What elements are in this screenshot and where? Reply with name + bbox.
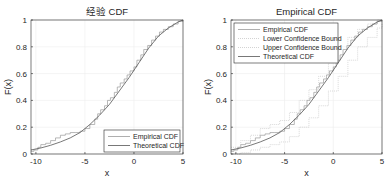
x-tick-label: -10 <box>230 157 242 166</box>
x-tick-label: 5 <box>380 157 385 166</box>
x-tick-label: 0 <box>331 157 336 166</box>
x-tick-label: 0 <box>132 157 137 166</box>
y-axis-label: F(x) <box>3 79 13 95</box>
y-tick-label: 0.4 <box>16 96 28 105</box>
x-axis-label: x <box>105 168 110 178</box>
chart-title: 经验 CDF <box>86 6 128 17</box>
y-tick-label: 0.4 <box>216 96 228 105</box>
x-tick-label: -5 <box>281 157 289 166</box>
x-axis-label: x <box>304 168 309 178</box>
y-tick-label: 0.8 <box>216 43 228 52</box>
legend-entry: Upper Confidence Bound <box>263 44 342 52</box>
legend-entry: Empirical CDF <box>133 133 178 141</box>
legend-entry: Empirical CDF <box>263 26 308 34</box>
x-tick-label: -10 <box>30 157 42 166</box>
y-tick-label: 1 <box>223 16 228 25</box>
y-axis-label: F(x) <box>203 79 213 95</box>
legend-entry: Lower Confidence Bound <box>263 35 342 42</box>
x-tick-label: 5 <box>181 157 186 166</box>
x-tick-label: -5 <box>81 157 89 166</box>
y-tick-label: 0.2 <box>16 123 28 132</box>
legend: Empirical CDFTheoretical CDF <box>104 130 184 152</box>
legend-entry: Theoretical CDF <box>133 142 184 149</box>
y-tick-label: 0 <box>23 150 28 159</box>
y-tick-label: 0.8 <box>16 43 28 52</box>
y-tick-label: 1 <box>23 16 28 25</box>
legend: Empirical CDFLower Confidence BoundUpper… <box>234 23 342 63</box>
y-tick-label: 0.2 <box>216 123 228 132</box>
legend-entry: Theoretical CDF <box>263 53 314 60</box>
y-tick-label: 0 <box>223 150 228 159</box>
y-tick-label: 0.6 <box>216 70 228 79</box>
figure: -10-50500.20.40.60.81经验 CDFxF(x)Empirica… <box>0 0 388 181</box>
chart-panel-1: -10-50500.20.40.60.81经验 CDFxF(x)Empirica… <box>3 6 186 178</box>
chart-title: Empirical CDF <box>276 6 337 17</box>
y-tick-label: 0.6 <box>16 70 28 79</box>
chart-panel-2: -10-50500.20.40.60.81Empirical CDFxF(x)E… <box>203 6 385 178</box>
